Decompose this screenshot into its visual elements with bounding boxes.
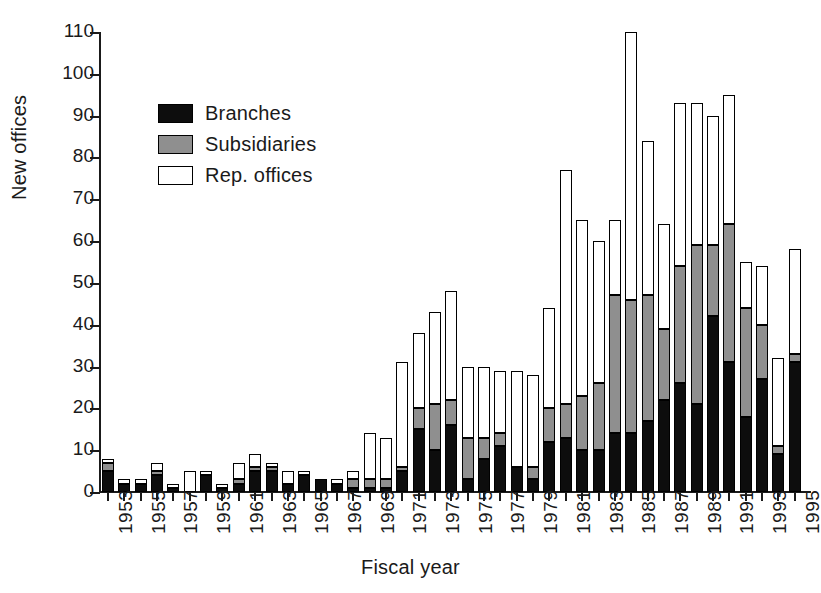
x-tick-label-1985: 1985 xyxy=(638,490,660,534)
bar-segment-branches xyxy=(740,417,752,492)
bar-segment-subsidiaries xyxy=(789,354,801,362)
bar-segment-branches xyxy=(609,433,621,492)
bar-segment-subsidiaries xyxy=(527,467,539,480)
x-tick-label-1963: 1963 xyxy=(279,490,301,534)
bar-segment-branches xyxy=(772,454,784,492)
legend-label: Subsidiaries xyxy=(205,133,316,156)
bar-segment-rep-offices xyxy=(151,463,163,471)
x-tick-mark xyxy=(238,493,240,501)
bar-segment-subsidiaries xyxy=(593,383,605,450)
legend-item-subsidiaries[interactable]: Subsidiaries xyxy=(158,129,316,160)
legend-swatch-icon xyxy=(158,166,193,185)
x-tick-mark xyxy=(107,493,109,501)
bar-segment-subsidiaries xyxy=(380,479,392,487)
x-tick-label-1993: 1993 xyxy=(769,490,791,534)
legend-swatch-icon xyxy=(158,104,193,123)
x-tick-mark xyxy=(728,493,730,501)
y-tick-label: 80 xyxy=(48,145,94,167)
x-tick-label-1953: 1953 xyxy=(115,490,137,534)
bar-segment-rep-offices xyxy=(118,479,130,483)
x-tick-mark xyxy=(794,493,796,501)
x-tick-mark xyxy=(401,493,403,501)
x-tick-label-1983: 1983 xyxy=(606,490,628,534)
bar-segment-rep-offices xyxy=(233,463,245,480)
bar-segment-branches xyxy=(543,442,555,492)
bar-segment-subsidiaries xyxy=(396,467,408,471)
bar-segment-subsidiaries xyxy=(494,433,506,446)
x-tick-mark xyxy=(369,493,371,501)
bar-segment-branches xyxy=(445,425,457,492)
bar-segment-rep-offices xyxy=(413,333,425,408)
x-tick-label-1989: 1989 xyxy=(704,490,726,534)
bar-segment-branches xyxy=(789,362,801,492)
x-axis-label: Fiscal year xyxy=(0,556,821,579)
bar-segment-subsidiaries xyxy=(462,438,474,480)
bar-segment-rep-offices xyxy=(429,312,441,404)
bar-segment-rep-offices xyxy=(511,371,523,467)
bar-segment-rep-offices xyxy=(347,471,359,479)
bar-segment-branches xyxy=(593,450,605,492)
bar-segment-rep-offices xyxy=(560,170,572,404)
y-axis-label: New offices xyxy=(8,0,38,200)
bar-segment-rep-offices xyxy=(396,362,408,467)
bar-segment-rep-offices xyxy=(756,266,768,325)
bar-segment-subsidiaries xyxy=(347,479,359,487)
bar-segment-rep-offices xyxy=(102,459,114,463)
y-tick-label: 110 xyxy=(48,20,94,42)
bar-segment-rep-offices xyxy=(593,241,605,383)
x-tick-label-1991: 1991 xyxy=(736,490,758,534)
x-tick-mark xyxy=(630,493,632,501)
bar-segment-branches xyxy=(102,471,114,492)
x-tick-mark xyxy=(434,493,436,501)
x-tick-mark xyxy=(271,493,273,501)
bar-segment-subsidiaries xyxy=(723,224,735,362)
bar-segment-rep-offices xyxy=(478,367,490,438)
bar-chart-figure: New offices Fiscal year 0102030405060708… xyxy=(0,0,821,593)
x-tick-label-1959: 1959 xyxy=(213,490,235,534)
bar-segment-rep-offices xyxy=(135,479,147,483)
x-tick-label-1987: 1987 xyxy=(671,490,693,534)
bar-segment-subsidiaries xyxy=(478,438,490,459)
bar-segment-rep-offices xyxy=(576,220,588,396)
bar-segment-subsidiaries xyxy=(364,479,376,487)
bar-segment-rep-offices xyxy=(216,484,228,488)
bar-segment-branches xyxy=(756,379,768,492)
bar-segment-rep-offices xyxy=(380,438,392,480)
bar-segment-rep-offices xyxy=(609,220,621,295)
x-tick-mark xyxy=(467,493,469,501)
legend-item-rep-offices[interactable]: Rep. offices xyxy=(158,160,316,191)
y-tick-label: 20 xyxy=(48,396,94,418)
bar-segment-rep-offices xyxy=(740,262,752,308)
bar-segment-subsidiaries xyxy=(756,325,768,379)
bar-segment-rep-offices xyxy=(674,103,686,266)
x-tick-mark xyxy=(499,493,501,501)
bar-segment-subsidiaries xyxy=(576,396,588,450)
bar-segment-rep-offices xyxy=(298,471,310,475)
legend-item-branches[interactable]: Branches xyxy=(158,98,316,129)
bar-segment-subsidiaries xyxy=(772,446,784,454)
bar-segment-branches xyxy=(560,438,572,492)
x-tick-mark xyxy=(532,493,534,501)
y-tick-label: 50 xyxy=(48,271,94,293)
x-tick-label-1969: 1969 xyxy=(377,490,399,534)
x-tick-label-1979: 1979 xyxy=(540,490,562,534)
bar-segment-rep-offices xyxy=(723,95,735,225)
x-tick-mark xyxy=(336,493,338,501)
bar-segment-rep-offices xyxy=(462,367,474,438)
bar-segment-branches xyxy=(707,316,719,492)
bar-segment-branches xyxy=(576,450,588,492)
x-tick-label-1957: 1957 xyxy=(180,490,202,534)
y-tick-label: 30 xyxy=(48,355,94,377)
x-tick-mark xyxy=(663,493,665,501)
bar-segment-subsidiaries xyxy=(102,463,114,471)
x-tick-label-1975: 1975 xyxy=(475,490,497,534)
y-tick-label: 60 xyxy=(48,229,94,251)
bar-segment-branches xyxy=(723,362,735,492)
bar-segment-rep-offices xyxy=(249,454,261,467)
y-tick-label: 0 xyxy=(48,480,94,502)
bar-segment-subsidiaries xyxy=(413,408,425,429)
x-tick-mark xyxy=(172,493,174,501)
bar-segment-rep-offices xyxy=(772,358,784,446)
x-tick-label-1967: 1967 xyxy=(344,490,366,534)
bar-segment-branches xyxy=(494,446,506,492)
